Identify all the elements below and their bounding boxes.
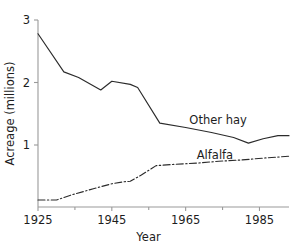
x-tick-label: 1965 <box>171 213 200 227</box>
x-tick-label: 1945 <box>97 213 126 227</box>
series-annotation-alfalfa: Alfalfa <box>197 148 233 162</box>
annotation-group: Other hayAlfalfa <box>189 113 247 162</box>
x-axis-title: Year <box>135 230 161 244</box>
x-tick-label: 1985 <box>245 213 274 227</box>
series-path-other-hay <box>38 34 289 143</box>
y-tick-group: 123 <box>23 13 38 152</box>
x-axis: 1925194519651985 <box>23 207 289 227</box>
series-group <box>38 34 289 200</box>
x-tick-group: 1925194519651985 <box>23 207 274 227</box>
y-tick-label: 2 <box>23 76 30 90</box>
y-tick-label: 3 <box>23 13 30 27</box>
y-tick-label: 1 <box>23 138 30 152</box>
chart-container: 123 1925194519651985 Other hayAlfalfa Ye… <box>0 0 297 245</box>
line-chart: 123 1925194519651985 Other hayAlfalfa Ye… <box>0 0 297 245</box>
x-tick-label: 1925 <box>23 213 52 227</box>
series-annotation-other-hay: Other hay <box>189 113 247 127</box>
y-axis: 123 <box>23 13 38 207</box>
series-path-alfalfa <box>38 156 289 200</box>
y-axis-title: Acreage (millions) <box>3 62 17 166</box>
